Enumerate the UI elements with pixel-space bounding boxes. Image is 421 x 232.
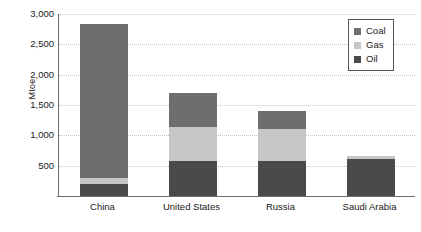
- legend-item[interactable]: Coal: [354, 24, 386, 38]
- legend-swatch-icon: [354, 42, 361, 49]
- x-tick-label: United States: [147, 201, 236, 212]
- bar-segment-oil[interactable]: [169, 161, 217, 196]
- y-axis-tick-labels: 5001,0001,5002,0002,5003,000: [8, 0, 54, 232]
- x-tick-label: Russia: [236, 201, 325, 212]
- y-tick-label: 3,000: [8, 9, 54, 19]
- legend-item[interactable]: Oil: [354, 52, 386, 66]
- y-tick-label: 2,500: [8, 39, 54, 49]
- bar-stack[interactable]: [258, 111, 306, 197]
- legend-label: Oil: [366, 54, 378, 64]
- y-tick-label: 1,500: [8, 100, 54, 110]
- x-axis-line: [57, 196, 415, 197]
- x-tick-label: Saudi Arabia: [325, 201, 414, 212]
- legend-label: Coal: [366, 26, 386, 36]
- bar-segment-gas[interactable]: [169, 127, 217, 162]
- bar-segment-coal[interactable]: [169, 93, 217, 127]
- bar-segment-coal[interactable]: [80, 24, 128, 179]
- bar-segment-coal[interactable]: [258, 111, 306, 129]
- legend-item[interactable]: Gas: [354, 38, 386, 52]
- legend-swatch-icon: [354, 56, 361, 63]
- bar-stack[interactable]: [169, 93, 217, 196]
- legend-label: Gas: [366, 40, 383, 50]
- y-tick-label: 1,000: [8, 130, 54, 140]
- bar-stack[interactable]: [347, 156, 395, 196]
- y-tick-label: 2,000: [8, 70, 54, 80]
- x-tick-label: China: [58, 201, 147, 212]
- bar-stack[interactable]: [80, 24, 128, 196]
- stacked-bar-chart: Mtoe 5001,0001,5002,0002,5003,000 CoalGa…: [0, 0, 421, 232]
- y-tick-label: 500: [8, 161, 54, 171]
- chart-legend: CoalGasOil: [348, 19, 394, 71]
- bar-segment-gas[interactable]: [258, 129, 306, 161]
- bar-segment-oil[interactable]: [347, 159, 395, 196]
- bar-segment-oil[interactable]: [258, 161, 306, 196]
- bar-segment-oil[interactable]: [80, 184, 128, 196]
- legend-swatch-icon: [354, 28, 361, 35]
- gridline: [59, 14, 415, 15]
